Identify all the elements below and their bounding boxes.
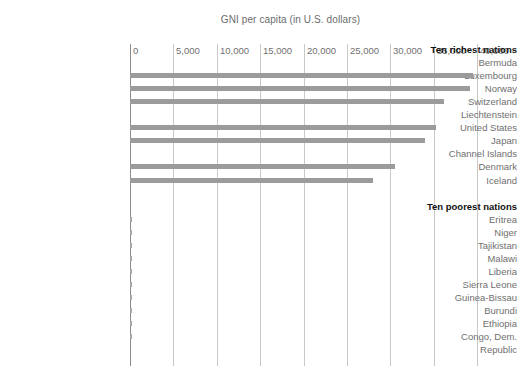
category-label: Congo, Dem.	[391, 331, 517, 342]
gridline-15000	[260, 44, 261, 366]
bar-tajikistan	[130, 243, 132, 248]
group-heading: Ten poorest nations	[391, 201, 517, 212]
category-label: Ethiopia	[391, 318, 517, 329]
x-tick-label-10000: 10,000	[220, 45, 249, 56]
bar-sierra-leone	[130, 282, 132, 287]
category-label: Tajikistan	[391, 240, 517, 251]
category-label: Malawi	[391, 253, 517, 264]
chart-title: GNI per capita (in U.S. dollars)	[0, 14, 517, 25]
bar-liberia	[130, 269, 132, 274]
bar-guinea-bissau	[130, 295, 132, 300]
category-label: Eritrea	[391, 214, 517, 225]
category-label: Bermuda	[391, 57, 517, 68]
category-label: Republic	[391, 344, 517, 355]
category-label: Liberia	[391, 266, 517, 277]
group-heading: Ten richest nations	[391, 44, 517, 55]
category-label: Niger	[391, 227, 517, 238]
bar-luxembourg	[130, 73, 473, 78]
category-label: Denmark	[391, 161, 517, 172]
bar-japan	[130, 138, 425, 143]
category-label: Guinea-Bissau	[391, 292, 517, 303]
bar-burundi	[130, 308, 132, 313]
y-axis-line	[130, 44, 131, 366]
bar-malawi	[130, 256, 132, 261]
gridline-5000	[173, 44, 174, 366]
category-label: Burundi	[391, 305, 517, 316]
bar-denmark	[130, 164, 395, 169]
bar-norway	[130, 86, 470, 91]
bar-iceland	[130, 178, 373, 183]
bar-eritrea	[130, 217, 132, 222]
x-tick-label-25000: 25,000	[350, 45, 379, 56]
gridline-20000	[304, 44, 305, 366]
bar-united-states	[130, 125, 436, 130]
category-label: Sierra Leone	[391, 279, 517, 290]
bar-niger	[130, 230, 132, 235]
category-label: Iceland	[391, 175, 517, 186]
gridline-25000	[347, 44, 348, 366]
bar-ethiopia	[130, 321, 132, 326]
bar-congo-dem-republic	[130, 334, 132, 339]
category-label: Liechtenstein	[391, 109, 517, 120]
x-tick-label-15000: 15,000	[263, 45, 292, 56]
category-label: Channel Islands	[391, 148, 517, 159]
gni-per-capita-chart: GNI per capita (in U.S. dollars) 05,0001…	[0, 0, 517, 387]
x-tick-label-5000: 5,000	[176, 45, 200, 56]
gridline-10000	[217, 44, 218, 366]
x-tick-label-0: 0	[133, 45, 138, 56]
bar-switzerland	[130, 99, 444, 104]
x-tick-label-20000: 20,000	[307, 45, 336, 56]
